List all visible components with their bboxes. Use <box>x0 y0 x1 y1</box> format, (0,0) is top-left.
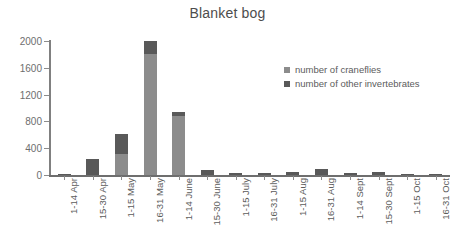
x-axis-tick-label: 1-15 July <box>240 178 251 217</box>
bar-segment-other-invertebrates[interactable] <box>115 134 128 154</box>
bar-segment-other-invertebrates[interactable] <box>315 169 328 175</box>
x-axis-tick-label: 16-31 Oct <box>440 178 451 220</box>
y-axis-tick-mark <box>44 121 49 122</box>
bar-group[interactable] <box>144 41 157 175</box>
x-axis-tick-label: 1-15 May <box>125 178 136 218</box>
x-axis-tick-label: 16-31 July <box>268 178 279 222</box>
x-axis-tick-label: 15-30 Apr <box>97 178 108 219</box>
bar-group[interactable] <box>201 170 214 175</box>
bar-group[interactable] <box>115 134 128 175</box>
bar-segment-other-invertebrates[interactable] <box>372 172 385 175</box>
bar-group[interactable] <box>172 112 185 175</box>
y-axis-tick-mark <box>44 68 49 69</box>
y-axis-tick-mark <box>44 175 49 176</box>
bar-segment-craneflies[interactable] <box>144 54 157 175</box>
bar-segment-other-invertebrates[interactable] <box>201 170 214 175</box>
y-axis-tick-mark <box>44 41 49 42</box>
x-axis-tick-label: 1-15 Oct <box>411 178 422 214</box>
bar-group[interactable] <box>286 172 299 175</box>
chart-container: Blanket bog 0400800120016002000 1-14 Apr… <box>0 0 455 242</box>
y-axis-tick-label: 1600 <box>2 62 42 73</box>
x-axis-tick-label: 1-15 Aug <box>297 178 308 216</box>
bar-group[interactable] <box>86 159 99 175</box>
x-axis-tick-label: 1-14 Apr <box>68 178 79 214</box>
x-axis-tick-labels: 1-14 Apr15-30 Apr1-15 May16-31 May1-14 J… <box>50 178 450 242</box>
bar-group[interactable] <box>229 173 242 175</box>
y-axis-tick-label: 0 <box>2 170 42 181</box>
chart-title: Blanket bog <box>0 5 455 21</box>
bar-group[interactable] <box>258 173 271 175</box>
y-axis-tick-mark <box>44 95 49 96</box>
y-axis-tick-label: 400 <box>2 143 42 154</box>
bar-segment-other-invertebrates[interactable] <box>344 173 357 175</box>
bar-segment-other-invertebrates[interactable] <box>286 172 299 175</box>
legend-label: number of craneflies <box>295 65 381 75</box>
legend-item[interactable]: number of craneflies <box>284 64 452 76</box>
bar-group[interactable] <box>58 174 71 175</box>
y-axis-tick-label: 1200 <box>2 89 42 100</box>
bar-segment-other-invertebrates[interactable] <box>258 173 271 175</box>
legend-label: number of other invertebrates <box>295 79 420 89</box>
x-axis-line <box>49 175 450 177</box>
x-axis-tick-label: 1-14 Sept <box>354 178 365 219</box>
y-axis-tick-mark <box>44 148 49 149</box>
legend-swatch-icon <box>284 81 290 87</box>
chart-legend: number of cranefliesnumber of other inve… <box>284 64 452 92</box>
bar-segment-other-invertebrates[interactable] <box>401 174 414 175</box>
bar-segment-other-invertebrates[interactable] <box>229 173 242 175</box>
x-axis-tick-label: 15-30 June <box>211 178 222 226</box>
bar-segment-craneflies[interactable] <box>115 154 128 175</box>
x-axis-tick-label: 16-31 Aug <box>325 178 336 221</box>
bar-segment-craneflies[interactable] <box>172 116 185 175</box>
y-axis-tick-labels: 0400800120016002000 <box>0 0 42 242</box>
x-axis-tick-label: 1-14 June <box>183 178 194 220</box>
bar-segment-other-invertebrates[interactable] <box>86 159 99 175</box>
bar-segment-other-invertebrates[interactable] <box>429 174 442 175</box>
legend-item[interactable]: number of other invertebrates <box>284 78 452 90</box>
y-axis-tick-label: 2000 <box>2 36 42 47</box>
bar-segment-other-invertebrates[interactable] <box>58 174 71 175</box>
bar-group[interactable] <box>315 169 328 175</box>
bar-segment-other-invertebrates[interactable] <box>144 41 157 55</box>
bar-group[interactable] <box>372 172 385 175</box>
bar-group[interactable] <box>401 174 414 175</box>
bar-group[interactable] <box>344 173 357 175</box>
x-axis-tick-label: 16-31 May <box>154 178 165 223</box>
bar-group[interactable] <box>429 174 442 175</box>
y-axis-tick-label: 800 <box>2 116 42 127</box>
x-axis-tick-label: 15-30 Sept <box>383 178 394 224</box>
plot-area <box>50 41 450 175</box>
legend-swatch-icon <box>284 67 290 73</box>
